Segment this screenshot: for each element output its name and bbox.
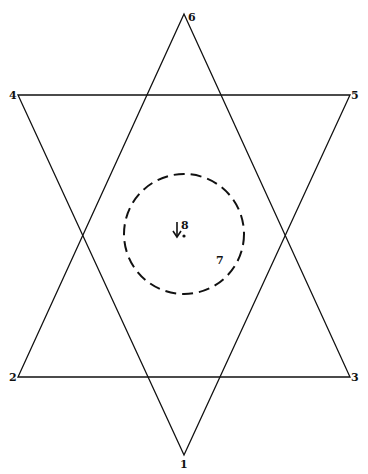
triangle-up xyxy=(18,14,350,377)
hexagram-diagram: 6 4 5 2 3 1 8 7 xyxy=(0,0,368,474)
vertex-label-4: 4 xyxy=(9,89,17,102)
arrow-down-icon xyxy=(173,222,181,237)
vertex-label-2: 2 xyxy=(9,371,17,384)
region-label-7: 7 xyxy=(216,254,224,267)
vertex-label-5: 5 xyxy=(351,89,359,102)
dashed-circle xyxy=(124,174,244,294)
triangle-down xyxy=(18,95,350,455)
vertex-label-3: 3 xyxy=(351,371,359,384)
vertex-label-1: 1 xyxy=(180,458,188,471)
center-label-8: 8 xyxy=(181,219,189,232)
center-point xyxy=(182,234,185,237)
vertex-label-6: 6 xyxy=(188,11,196,24)
